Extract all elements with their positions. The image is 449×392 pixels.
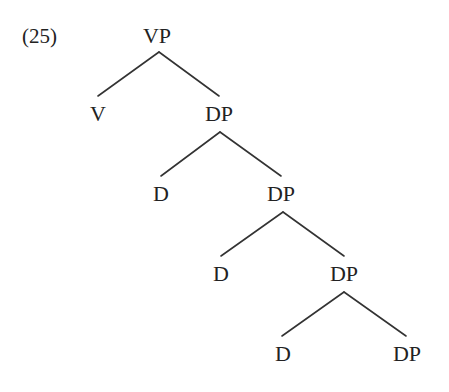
syntax-tree-diagram: (25) VP V DP D DP D DP D DP <box>0 0 449 392</box>
edge-dp-dp-3 <box>344 292 406 336</box>
node-d-2: D <box>213 263 229 285</box>
edge-vp-dp <box>159 52 219 96</box>
node-v: V <box>90 103 106 125</box>
tree-branches <box>0 0 449 392</box>
edge-dp-d-1 <box>161 132 220 176</box>
node-dp-4: DP <box>393 343 421 365</box>
edge-dp-dp-1 <box>220 132 281 176</box>
node-vp: VP <box>143 25 171 47</box>
node-dp-3: DP <box>330 263 358 285</box>
node-dp-1: DP <box>205 103 233 125</box>
edge-dp-d-3 <box>282 292 344 336</box>
node-d-3: D <box>275 343 291 365</box>
edge-dp-d-2 <box>221 212 283 256</box>
edge-dp-dp-2 <box>283 212 344 256</box>
node-dp-2: DP <box>267 183 295 205</box>
node-d-1: D <box>153 183 169 205</box>
edge-vp-v <box>98 52 159 96</box>
